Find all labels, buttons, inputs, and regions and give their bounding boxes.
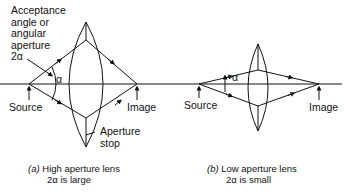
acceptance-angle-label: Acceptance angle or angular aperture 2α [11,5,66,63]
aperture-stop-pointer [86,132,95,135]
image-label-b: Image [309,102,338,114]
ray-lower-a [29,84,137,118]
source-label-b: Source [184,100,217,112]
caption-b: (b) Low aperture lens 2α is small [207,163,297,185]
alpha-label-a: α [56,74,62,86]
caption-a: (a) High aperture lens 2α is large [28,163,120,185]
source-label-a: Source [9,102,42,114]
image-label-a: Image [127,102,156,114]
ray-upper-b [199,70,319,84]
aperture-stop-label: Aperture stop [100,126,140,149]
alpha-label-b: α [232,72,238,84]
